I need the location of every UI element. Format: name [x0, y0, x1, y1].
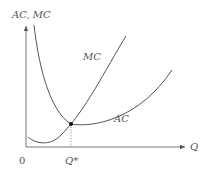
- ac-curve-label: AC: [114, 114, 129, 124]
- y-axis-label: AC, MC: [12, 10, 51, 20]
- cost-curves-diagram: [0, 0, 209, 171]
- x-axis-label: Q: [190, 142, 198, 152]
- q-star-label: Q*: [65, 156, 78, 166]
- mc-curve: [28, 36, 126, 143]
- origin-label: 0: [19, 156, 25, 166]
- intersection-point: [69, 122, 73, 126]
- mc-curve-label: MC: [83, 52, 101, 62]
